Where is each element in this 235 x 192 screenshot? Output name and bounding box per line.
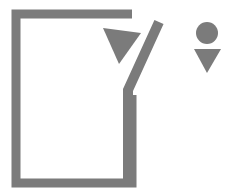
artwork-canvas: Grayscale line-art emblem An open rectan…: [0, 0, 235, 192]
emblem-graphic: [0, 0, 235, 192]
marker-circle-icon: [196, 22, 218, 44]
